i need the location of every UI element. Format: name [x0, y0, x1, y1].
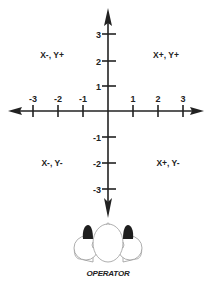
- left-arm-icon: [83, 225, 93, 239]
- y-tick-label: 3: [96, 30, 101, 40]
- operator-label: OPERATOR: [87, 269, 130, 278]
- x-tick-label: -3: [29, 94, 37, 104]
- y-tick-label: -1: [93, 133, 101, 143]
- x-axis-right-arrow-icon: [190, 107, 204, 115]
- x-tick-label: -2: [54, 94, 62, 104]
- x-axis: -3-2-1123: [8, 94, 204, 117]
- y-tick-label: 1: [96, 82, 101, 92]
- operator-figure-icon: [74, 223, 142, 262]
- operator-head-icon: [93, 224, 123, 262]
- y-tick-label: -3: [93, 185, 101, 195]
- quadrant-label-bottom-right: X+, Y-: [156, 158, 179, 168]
- y-tick-label: -2: [93, 159, 101, 169]
- quadrant-label-top-left: X-, Y+: [40, 50, 64, 60]
- x-tick-label: 2: [155, 94, 160, 104]
- right-arm-icon: [123, 225, 133, 239]
- x-axis-left-arrow-icon: [8, 107, 22, 115]
- y-tick-label: 2: [96, 57, 101, 67]
- coordinate-diagram: -3-2-1123 321-1-2-3 X-, Y+ X+, Y+ X-, Y-…: [0, 0, 210, 282]
- x-tick-label: -1: [79, 94, 87, 104]
- x-tick-label: 1: [130, 94, 135, 104]
- x-tick-label: 3: [180, 94, 185, 104]
- y-axis: 321-1-2-3: [93, 8, 116, 218]
- quadrant-label-bottom-left: X-, Y-: [41, 158, 62, 168]
- quadrant-label-top-right: X+, Y+: [153, 50, 179, 60]
